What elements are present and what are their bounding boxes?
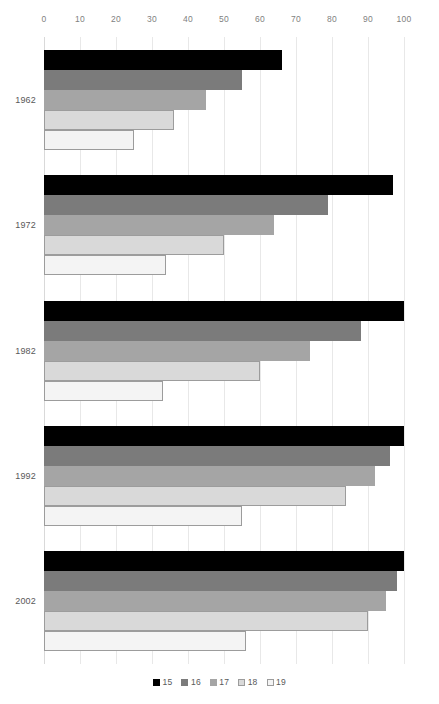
bar-row [44, 50, 404, 70]
bar-row [44, 361, 404, 381]
bar[interactable] [44, 591, 386, 611]
x-tick-label: 60 [255, 14, 265, 24]
legend-swatch-icon [267, 679, 274, 686]
bar-row [44, 506, 404, 526]
legend-swatch-icon [181, 679, 188, 686]
legend-label: 19 [276, 678, 286, 687]
x-tick-label: 30 [147, 14, 157, 24]
category-label: 1972 [15, 220, 36, 230]
bar[interactable] [44, 631, 246, 651]
legend-item[interactable]: 18 [238, 678, 257, 687]
legend-label: 16 [191, 678, 201, 687]
bar[interactable] [44, 506, 242, 526]
legend-label: 17 [219, 678, 229, 687]
bar-row [44, 215, 404, 235]
bar-row [44, 631, 404, 651]
gridline [404, 37, 405, 664]
x-tick-label: 90 [363, 14, 373, 24]
bar[interactable] [44, 486, 346, 506]
bar[interactable] [44, 446, 390, 466]
bar-row [44, 70, 404, 90]
bar-row [44, 571, 404, 591]
bar-chart: 0102030405060708090100 19621972198219922… [0, 0, 439, 704]
bar[interactable] [44, 175, 393, 195]
x-tick-label: 40 [183, 14, 193, 24]
bar-row [44, 90, 404, 110]
bar-row [44, 255, 404, 275]
legend-item[interactable]: 19 [267, 678, 286, 687]
legend-swatch-icon [153, 679, 160, 686]
bar[interactable] [44, 235, 224, 255]
bar-row [44, 175, 404, 195]
bar-group [44, 551, 404, 651]
bar-row [44, 301, 404, 321]
x-tick-label: 100 [397, 14, 412, 24]
x-tick-label: 10 [75, 14, 85, 24]
bar[interactable] [44, 215, 274, 235]
bar-row [44, 611, 404, 631]
bar[interactable] [44, 110, 174, 130]
category-label: 1962 [15, 95, 36, 105]
bar-group [44, 301, 404, 401]
bar[interactable] [44, 90, 206, 110]
legend-swatch-icon [210, 679, 217, 686]
bar-row [44, 341, 404, 361]
x-tick-label: 20 [111, 14, 121, 24]
bar-row [44, 551, 404, 571]
bar-group [44, 50, 404, 150]
bar-row [44, 381, 404, 401]
legend-swatch-icon [238, 679, 245, 686]
y-axis-category-labels: 19621972198219922002 [0, 37, 44, 664]
legend-item[interactable]: 16 [181, 678, 200, 687]
x-tick-label: 50 [219, 14, 229, 24]
bar[interactable] [44, 466, 375, 486]
bar-group [44, 175, 404, 275]
bar[interactable] [44, 426, 404, 446]
x-tick-label: 80 [327, 14, 337, 24]
legend-label: 15 [163, 678, 173, 687]
legend-label: 18 [248, 678, 258, 687]
legend-item[interactable]: 15 [153, 678, 172, 687]
bar[interactable] [44, 321, 361, 341]
chart-legend: 1516171819 [0, 678, 439, 687]
bar[interactable] [44, 255, 166, 275]
bar[interactable] [44, 381, 163, 401]
plot-area [44, 37, 404, 664]
bar[interactable] [44, 611, 368, 631]
bar[interactable] [44, 571, 397, 591]
bar[interactable] [44, 70, 242, 90]
category-label: 2002 [15, 596, 36, 606]
bar-row [44, 195, 404, 215]
bar[interactable] [44, 130, 134, 150]
bar[interactable] [44, 195, 328, 215]
bar[interactable] [44, 551, 404, 571]
bar-group [44, 426, 404, 526]
legend-item[interactable]: 17 [210, 678, 229, 687]
x-tick-label: 0 [42, 14, 47, 24]
bar-row [44, 446, 404, 466]
bar[interactable] [44, 50, 282, 70]
bar-row [44, 591, 404, 611]
x-tick-label: 70 [291, 14, 301, 24]
bar-row [44, 235, 404, 255]
x-axis: 0102030405060708090100 [0, 0, 439, 30]
bar[interactable] [44, 341, 310, 361]
category-label: 1982 [15, 346, 36, 356]
bar[interactable] [44, 361, 260, 381]
bar-row [44, 110, 404, 130]
category-label: 1992 [15, 471, 36, 481]
bar-row [44, 486, 404, 506]
bar-row [44, 426, 404, 446]
bar-row [44, 130, 404, 150]
bar[interactable] [44, 301, 404, 321]
bar-row [44, 466, 404, 486]
bar-row [44, 321, 404, 341]
